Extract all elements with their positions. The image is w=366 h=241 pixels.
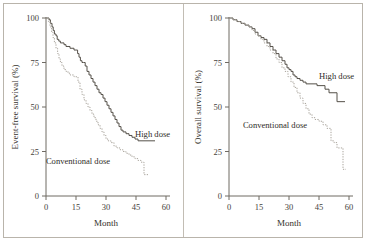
y-tick-label: 50 <box>31 102 40 112</box>
survival-curve-conventional-dose <box>229 18 346 169</box>
y-axis-title: Event-free survival (%) <box>10 65 20 150</box>
x-tick-label: 0 <box>227 202 231 212</box>
x-tick-label: 60 <box>345 202 354 212</box>
y-tick-label: 75 <box>214 58 223 68</box>
x-axis-title: Month <box>94 218 119 228</box>
series-label-high-dose: High dose <box>319 71 354 81</box>
panel-overall-survival: 0153045600255075100MonthOverall survival… <box>183 0 366 241</box>
y-tick-label: 100 <box>26 13 39 23</box>
y-tick-label: 25 <box>214 147 223 157</box>
x-tick-label: 60 <box>162 202 171 212</box>
series-label-conventional-dose: Conventional dose <box>46 156 110 166</box>
y-tick-label: 75 <box>31 58 40 68</box>
y-tick-label: 0 <box>218 191 222 201</box>
survival-curve-high-dose <box>229 18 345 102</box>
x-tick-label: 30 <box>102 202 111 212</box>
survival-figure: 0153045600255075100MonthEvent-free survi… <box>0 0 366 241</box>
x-tick-label: 45 <box>315 202 324 212</box>
x-tick-label: 15 <box>255 202 264 212</box>
y-tick-label: 50 <box>214 102 223 112</box>
survival-curve-high-dose <box>46 18 155 141</box>
y-tick-label: 0 <box>35 191 39 201</box>
overall-survival-plot: 0153045600255075100MonthOverall survival… <box>183 0 366 241</box>
y-tick-label: 25 <box>31 147 40 157</box>
survival-curve-conventional-dose <box>46 18 148 175</box>
x-axis-title: Month <box>277 218 302 228</box>
x-tick-label: 45 <box>132 202 141 212</box>
panel-event-free-survival: 0153045600255075100MonthEvent-free survi… <box>0 0 183 241</box>
y-tick-label: 100 <box>209 13 222 23</box>
event-free-survival-plot: 0153045600255075100MonthEvent-free survi… <box>0 0 183 241</box>
series-label-high-dose: High dose <box>135 129 170 139</box>
x-tick-label: 30 <box>285 202 294 212</box>
series-label-conventional-dose: Conventional dose <box>243 120 307 130</box>
x-tick-label: 0 <box>44 202 48 212</box>
x-tick-label: 15 <box>72 202 81 212</box>
y-axis-title: Overall survival (%) <box>193 70 203 144</box>
